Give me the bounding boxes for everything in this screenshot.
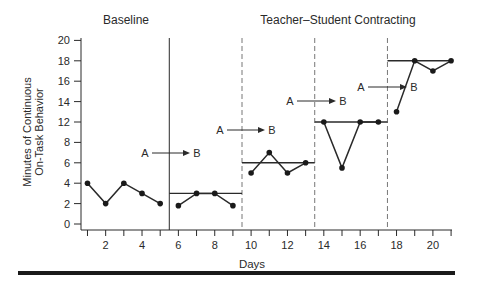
bottom-rule: [18, 271, 455, 275]
data-point: [176, 203, 182, 209]
series-line: [178, 193, 233, 205]
data-point: [285, 170, 291, 176]
data-point: [412, 58, 418, 64]
y-tick-label: 16: [58, 75, 70, 87]
x-tick-label: 6: [175, 239, 181, 251]
y-tick-label: 18: [58, 55, 70, 67]
x-tick-label: 14: [318, 239, 330, 251]
data-point: [430, 68, 436, 74]
data-point: [230, 203, 236, 209]
data-point: [339, 165, 345, 171]
annotation-a: A: [357, 81, 365, 93]
annotation-b: B: [410, 81, 417, 93]
arrow-head-icon: [329, 98, 336, 104]
data-point: [85, 180, 91, 186]
annotation-a: A: [216, 124, 224, 136]
axes: 0246812141618202468101214161820: [58, 34, 452, 251]
data-point: [157, 201, 163, 207]
series-line: [324, 122, 379, 168]
data-point: [321, 119, 327, 125]
y-axis-label-line: Minutes of Continuous: [21, 77, 33, 187]
arrow-head-icon: [258, 127, 265, 133]
data-point: [376, 119, 382, 125]
data-point: [121, 180, 127, 186]
x-tick-label: 12: [281, 239, 293, 251]
annotation-b: B: [268, 124, 275, 136]
x-tick-label: 20: [427, 239, 439, 251]
data-point: [248, 170, 254, 176]
y-tick-label: 2: [64, 198, 70, 210]
phase-label: Teacher–Student Contracting: [260, 13, 415, 27]
x-tick-label: 16: [354, 239, 366, 251]
annotation-a: A: [286, 95, 294, 107]
x-tick-label: 2: [103, 239, 109, 251]
data-point: [103, 201, 109, 207]
data-point: [212, 191, 218, 197]
y-tick-label: 6: [64, 157, 70, 169]
annotation-b: B: [339, 95, 346, 107]
data-point: [194, 191, 200, 197]
x-tick-label: 8: [212, 239, 218, 251]
annotation-a: A: [141, 147, 149, 159]
y-axis-label-line: On-Task Behavior: [33, 88, 45, 176]
arrow-head-icon: [183, 150, 190, 156]
x-tick-label: 4: [139, 239, 145, 251]
annotation-b: B: [193, 147, 200, 159]
data-point: [394, 109, 400, 115]
series-line: [88, 183, 161, 203]
a-to-b-annotations: ABABABAB: [141, 81, 417, 159]
phase-label: Baseline: [103, 13, 149, 27]
y-tick-label: 12: [58, 116, 70, 128]
x-axis-label: Days: [239, 258, 265, 270]
x-tick-label: 18: [390, 239, 402, 251]
y-tick-label: 14: [58, 96, 70, 108]
data-point: [266, 150, 272, 156]
y-tick-label: 0: [64, 218, 70, 230]
y-tick-label: 4: [64, 177, 70, 189]
phase-labels: BaselineTeacher–Student Contracting: [103, 13, 416, 27]
x-tick-label: 10: [245, 239, 257, 251]
data-point: [139, 191, 145, 197]
data-point: [448, 58, 454, 64]
data-point: [303, 160, 309, 166]
y-tick-label: 8: [64, 136, 70, 148]
y-axis-label: Minutes of ContinuousOn-Task Behavior: [21, 77, 45, 187]
single-subject-chart: BaselineTeacher–Student Contracting Minu…: [0, 0, 480, 288]
y-tick-label: 20: [58, 34, 70, 46]
data-point: [357, 119, 363, 125]
